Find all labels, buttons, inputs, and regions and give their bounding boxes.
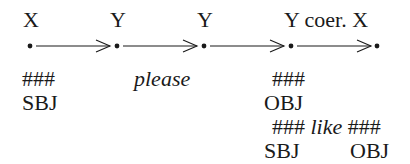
node-dot xyxy=(375,44,380,49)
like-frame: ### like ### xyxy=(272,116,381,138)
role-label-sbj: SBJ xyxy=(264,140,299,162)
node-dot xyxy=(202,44,207,49)
node-label-y: Y xyxy=(110,9,126,31)
edge-label-please: please xyxy=(134,68,190,90)
role-label-sbj: SBJ xyxy=(22,92,57,114)
hash-placeholder: ### xyxy=(272,68,305,90)
node-label-y: Y xyxy=(197,9,213,31)
hash-placeholder: ### xyxy=(348,114,381,139)
hash-placeholder: ### xyxy=(272,114,305,139)
node-dot xyxy=(115,44,120,49)
node-label-x: X xyxy=(23,9,39,31)
node-dot xyxy=(289,44,294,49)
node-label-coercion: Y coer. X xyxy=(284,9,368,31)
role-label-obj: OBJ xyxy=(350,140,389,162)
node-dot xyxy=(28,44,33,49)
hash-placeholder: ### xyxy=(22,68,55,90)
role-label-obj: OBJ xyxy=(264,92,303,114)
verb-like: like xyxy=(311,114,343,139)
